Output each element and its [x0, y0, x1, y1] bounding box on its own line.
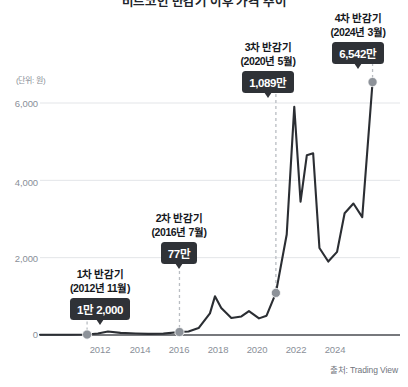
x-tick-2024: 2024: [313, 344, 357, 355]
halving-marker-1: [82, 330, 91, 339]
annotation-halving-2-title: 2차 반감기: [124, 212, 234, 226]
x-tick-2022: 2022: [274, 344, 318, 355]
y-tick-0: 0: [0, 329, 38, 340]
annotation-halving-4-value: 6,542만: [332, 42, 383, 64]
annotation-halving-2-date: (2016년 7월): [124, 226, 234, 240]
annotation-halving-2: 2차 반감기 (2016년 7월) 77만: [124, 212, 234, 264]
y-tick-4000: 4,000: [0, 177, 38, 188]
annotation-halving-1-value: 1만 2,000: [70, 298, 130, 320]
halving-marker-4: [368, 77, 377, 86]
y-tick-2000: 2,000: [0, 253, 38, 264]
x-tick-2020: 2020: [235, 344, 279, 355]
x-tick-2018: 2018: [196, 344, 240, 355]
annotation-halving-2-value: 77만: [161, 242, 198, 264]
halving-marker-3: [271, 288, 280, 297]
annotation-halving-1-title: 1차 반감기: [38, 268, 162, 282]
x-tick-2012: 2012: [78, 344, 122, 355]
annotation-halving-1-date: (2012년 11월): [38, 282, 162, 296]
y-tick-6000: 6,000: [0, 98, 38, 109]
y-axis-unit-label: (단위: 원): [16, 74, 45, 85]
halving-marker-2: [175, 327, 184, 336]
x-tick-2016: 2016: [157, 344, 201, 355]
annotation-halving-4: 4차 반감기 (2024년 3월) 6,542만: [303, 12, 408, 64]
annotation-halving-3-value: 1,089만: [242, 71, 293, 93]
chart-root: 비트코인 반감기 이후 가격 추이 (단위: 원) 6,000 4,000 2,…: [0, 0, 408, 387]
annotation-halving-4-date: (2024년 3월): [303, 26, 408, 40]
annotation-halving-1: 1차 반감기 (2012년 11월) 1만 2,000: [38, 268, 162, 320]
x-tick-2014: 2014: [118, 344, 162, 355]
annotation-halving-4-title: 4차 반감기: [303, 12, 408, 26]
source-credit: 출처: Trading View: [330, 363, 398, 375]
